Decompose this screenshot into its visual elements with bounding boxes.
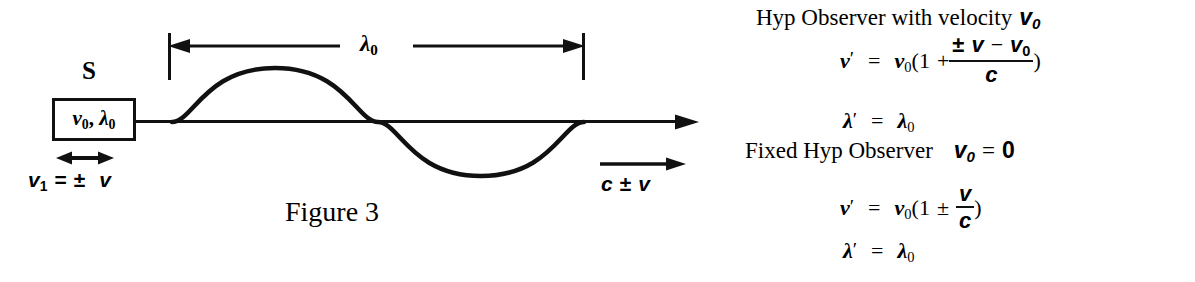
fo-freq-equals: = [868,195,880,220]
moving-observer-heading-text: Hyp Observer with velocity [756,5,1012,30]
figure-3-root: λ0 S ν0, λ0 v1=±v c±v Figure [0,0,1195,282]
mo-wl-rhs-lambda: λ [898,108,908,133]
fo-freq-numerator: v [956,182,974,208]
moving-observer-heading-symbol-sub: 0 [1032,15,1040,32]
fixed-observer-frequency-equation: ν′=ν0(1±vc) [840,185,982,235]
source-velocity-double-arrow-icon [56,149,114,167]
mo-freq-open-paren: ( [912,48,919,73]
source-box-label: ν0, λ0 [72,108,115,132]
mo-freq-plus: + [937,48,949,73]
wave-speed-label: c±v [601,172,650,196]
moving-observer-heading-symbol: v [1019,4,1032,30]
fo-wl-rhs-sub: 0 [907,249,914,265]
mo-wl-lhs-prime: ′ [853,108,857,130]
mo-wl-equals: = [871,108,883,133]
mo-freq-num-minus: − [991,32,1003,57]
mo-wl-rhs-sub: 0 [907,119,914,135]
mo-freq-lhs-prime: ′ [850,47,854,69]
mo-freq-num-v0-sub: 0 [1022,43,1030,59]
fixed-observer-heading-value: 0 [1002,137,1015,163]
fixed-observer-heading-symbol-sub: 0 [967,148,975,165]
mo-freq-num-pm: ± [952,32,964,57]
fo-freq-rhs-nu: ν [895,195,905,220]
fixed-observer-wavelength-equation: λ′=λ0 [843,240,915,265]
mo-freq-one: 1 [919,48,930,73]
mo-freq-lhs-nu: ν [840,48,850,73]
wave-speed-v: v [638,172,650,195]
wave-speed-pm: ± [620,172,632,195]
fixed-observer-heading-symbol: v [954,137,967,163]
fo-freq-lhs-nu: ν [840,195,850,220]
mo-freq-num-v: v [971,32,983,57]
wavelength-label-sub: 0 [370,41,378,58]
mo-freq-equals: = [868,48,880,73]
fo-wl-equals: = [871,238,883,263]
source-lambda-sub: 0 [109,117,116,132]
fo-freq-pm: ± [937,195,949,220]
figure-caption: Figure 3 [285,198,379,226]
source-velocity-v: v [28,168,40,191]
fo-freq-fraction: vc [956,182,974,232]
wavelength-right-arrow-icon [413,37,585,55]
mo-wl-lhs-lambda: λ [843,108,853,133]
mo-freq-rhs-nu: ν [895,48,905,73]
fixed-observer-heading: Fixed Hyp Observerv0=0 [745,139,1015,164]
mo-freq-rhs-sub: 0 [904,59,911,75]
source-label-s: S [82,58,96,83]
source-nu-sub: 0 [82,117,89,132]
mo-freq-num-v0: v [1010,32,1022,57]
wavelength-label-lambda: λ [360,31,370,56]
source-velocity-equals: = [54,168,66,191]
wavelength-label: λ0 [360,31,378,59]
mo-freq-numerator: ±v−v0 [949,33,1033,62]
fo-wl-lhs-lambda: λ [843,238,853,263]
sine-wave [165,62,595,184]
source-velocity-label: v1=±v [28,168,111,194]
mo-freq-denominator: c [949,62,1033,86]
wave-speed-arrow-icon [600,156,686,172]
source-lambda: λ [99,106,108,130]
fo-freq-rhs-sub: 0 [904,206,911,222]
wave-direction-arrow-icon [673,113,699,131]
source-velocity-pm: ± [74,168,86,191]
fixed-observer-heading-equals: = [982,138,995,163]
fo-freq-lhs-prime: ′ [850,195,854,217]
source-box: ν0, λ0 [52,98,136,141]
fixed-observer-heading-text: Fixed Hyp Observer [745,138,933,163]
wave-speed-c: c [601,172,613,195]
source-velocity-v-sub: 1 [40,178,48,194]
moving-observer-frequency-equation: ν′=ν0(1+±v−v0c) [840,36,1041,89]
source-nu: ν [72,106,81,130]
mo-freq-fraction: ±v−v0c [949,33,1033,86]
moving-observer-heading: Hyp Observer with velocityv0 [756,6,1040,31]
fo-freq-one: 1 [919,195,930,220]
fo-freq-close-paren: ) [974,195,981,220]
fo-wl-rhs-lambda: λ [898,238,908,263]
fo-freq-denominator: c [956,208,974,232]
wavelength-left-arrow-icon [168,37,340,55]
mo-freq-close-paren: ) [1033,48,1040,73]
moving-observer-wavelength-equation: λ′=λ0 [843,110,915,135]
fo-freq-open-paren: ( [912,195,919,220]
fo-wl-lhs-prime: ′ [853,238,857,260]
source-velocity-v2: v [99,168,111,191]
